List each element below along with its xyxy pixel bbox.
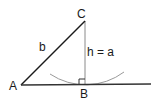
vertex-label-a: A [9,80,17,92]
compass-arc [50,72,124,85]
baseline [21,84,151,85]
side-label-b: b [39,41,46,53]
height-label: h = a [87,46,114,58]
vertex-label-b: B [80,88,88,100]
vertex-label-c: C [77,8,86,20]
